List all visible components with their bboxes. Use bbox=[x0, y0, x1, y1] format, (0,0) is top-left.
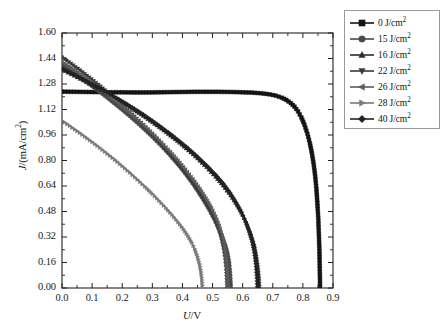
legend-label: 0 J/cm2 bbox=[378, 18, 406, 28]
x-tick-label: 0.3 bbox=[139, 292, 165, 303]
x-tick-label: 0.5 bbox=[200, 292, 226, 303]
x-tick-label: 0.4 bbox=[169, 292, 195, 303]
legend-item-0-jcm2[interactable]: 0 J/cm2 bbox=[348, 15, 436, 31]
legend-label: 15 J/cm2 bbox=[378, 34, 411, 44]
legend-label: 26 J/cm2 bbox=[378, 82, 411, 92]
legend-item-28-jcm2[interactable]: 28 J/cm2 bbox=[348, 95, 436, 111]
legend-marker-triangle-left-icon bbox=[348, 80, 376, 94]
legend-dose-unit: J/cm bbox=[390, 82, 408, 92]
x-tick-label: 0.2 bbox=[109, 292, 135, 303]
legend-item-15-jcm2[interactable]: 15 J/cm2 bbox=[348, 31, 436, 47]
legend-dose-exponent: 2 bbox=[407, 96, 411, 104]
legend-dose-exponent: 2 bbox=[407, 112, 411, 120]
curve-0-jcm2 bbox=[60, 90, 322, 289]
legend-item-40-jcm2[interactable]: 40 J/cm2 bbox=[348, 111, 436, 127]
legend-marker-triangle-up-icon bbox=[348, 48, 376, 62]
y-tick-label: 0.48 bbox=[22, 205, 56, 216]
y-tick-label: 0.00 bbox=[22, 281, 56, 292]
legend-dose-value: 40 bbox=[378, 114, 390, 124]
chart-legend: 0 J/cm215 J/cm216 J/cm222 J/cm226 J/cm22… bbox=[344, 10, 440, 129]
legend-marker-circle-icon bbox=[348, 32, 376, 46]
legend-marker-diamond-icon bbox=[348, 112, 376, 126]
legend-dose-exponent: 2 bbox=[407, 80, 411, 88]
legend-marker-triangle-right-icon bbox=[348, 96, 376, 110]
legend-dose-value: 22 bbox=[378, 66, 390, 76]
x-axis-title: U/V bbox=[62, 310, 322, 321]
x-tick-label: 0.0 bbox=[49, 292, 75, 303]
legend-label: 22 J/cm2 bbox=[378, 66, 411, 76]
legend-label: 40 J/cm2 bbox=[378, 114, 411, 124]
legend-dose-exponent: 2 bbox=[402, 16, 406, 24]
legend-dose-exponent: 2 bbox=[407, 48, 411, 56]
y-tick-label: 1.44 bbox=[22, 52, 56, 63]
y-axis-exponent: 2 bbox=[15, 124, 23, 128]
legend-label: 28 J/cm2 bbox=[378, 98, 411, 108]
legend-dose-exponent: 2 bbox=[407, 64, 411, 72]
legend-marker-square-icon bbox=[348, 16, 376, 30]
legend-dose-unit: J/cm bbox=[390, 66, 408, 76]
x-tick-label: 0.7 bbox=[260, 292, 286, 303]
legend-item-26-jcm2[interactable]: 26 J/cm2 bbox=[348, 79, 436, 95]
legend-dose-unit: J/cm bbox=[390, 34, 408, 44]
legend-dose-exponent: 2 bbox=[407, 32, 411, 40]
legend-dose-value: 0 bbox=[378, 18, 385, 28]
curve-16-jcm2 bbox=[60, 67, 262, 288]
x-tick-label: 0.1 bbox=[79, 292, 105, 303]
x-axis-unit: /V bbox=[191, 310, 202, 321]
legend-dose-value: 15 bbox=[378, 34, 390, 44]
legend-label: 16 J/cm2 bbox=[378, 50, 411, 60]
data-curves bbox=[60, 56, 322, 290]
y-axis-unit: /(mA/cm bbox=[17, 128, 28, 166]
legend-dose-unit: J/cm bbox=[390, 114, 408, 124]
y-tick-label: 0.16 bbox=[22, 256, 56, 267]
legend-dose-value: 28 bbox=[378, 98, 390, 108]
legend-dose-unit: J/cm bbox=[385, 18, 403, 28]
figure-canvas: 0.000.160.320.480.640.800.961.121.281.44… bbox=[0, 0, 444, 332]
legend-item-16-jcm2[interactable]: 16 J/cm2 bbox=[348, 47, 436, 63]
x-tick-label: 0.8 bbox=[290, 292, 316, 303]
x-tick-label: 0.9 bbox=[320, 292, 346, 303]
axis-ticks bbox=[62, 33, 333, 288]
y-axis-symbol: J bbox=[17, 166, 28, 171]
legend-marker-triangle-down-icon bbox=[348, 64, 376, 78]
curve-15-jcm2 bbox=[60, 63, 233, 290]
y-axis-paren: ) bbox=[17, 121, 28, 125]
legend-dose-value: 26 bbox=[378, 82, 390, 92]
legend-item-22-jcm2[interactable]: 22 J/cm2 bbox=[348, 63, 436, 79]
legend-dose-unit: J/cm bbox=[390, 98, 408, 108]
legend-dose-value: 16 bbox=[378, 50, 390, 60]
y-tick-label: 0.32 bbox=[22, 230, 56, 241]
plot-frame bbox=[62, 33, 333, 288]
x-tick-label: 0.6 bbox=[230, 292, 256, 303]
y-tick-label: 1.60 bbox=[22, 26, 56, 37]
x-axis-symbol: U bbox=[183, 310, 191, 321]
y-axis-title: J/(mA/cm2) bbox=[17, 86, 28, 206]
legend-dose-unit: J/cm bbox=[390, 50, 408, 60]
